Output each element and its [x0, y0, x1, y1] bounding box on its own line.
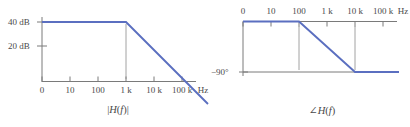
phase-caption: ∠H(f)	[309, 104, 335, 116]
phase-xlabel-1k: 1 k	[321, 6, 332, 16]
phase-plot: −90° 0 10 100 1 k 10 k 100 k Hz ∠H(f)	[0, 0, 410, 127]
phase-caption-paren-close: )	[332, 105, 336, 116]
phase-xlabel-100k: 100 k	[373, 6, 393, 16]
phase-xlabel-10: 10	[267, 6, 276, 16]
phase-ylabel-minus90: −90°	[211, 67, 229, 77]
phase-xlabel-10k: 10 k	[347, 6, 363, 16]
phase-xlabel-100: 100	[292, 6, 306, 16]
phase-unit-hz: Hz	[398, 6, 409, 16]
phase-xlabel-0: 0	[241, 6, 246, 16]
phase-caption-prefix: ∠	[309, 105, 318, 116]
phase-trace	[243, 22, 399, 73]
bode-plot-figure: 40 dB 20 dB 0 10 100 1 k 10 k 100 k Hz |…	[0, 0, 410, 127]
phase-plot-svg	[0, 0, 410, 127]
